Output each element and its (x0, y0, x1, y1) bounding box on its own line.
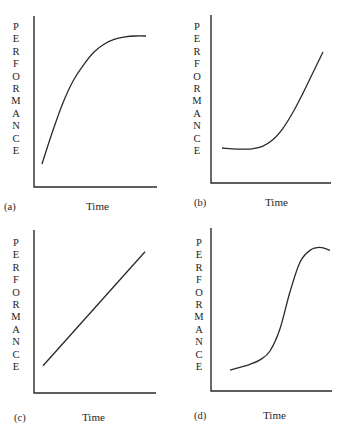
axes-a (34, 16, 157, 187)
y-axis-label-letter: A (193, 108, 201, 119)
y-axis-label-letter: F (13, 274, 19, 285)
y-axis-label-letter: P (13, 21, 19, 32)
x-axis-label: Time (263, 409, 286, 421)
panel-b: PERFORMANCETime(b) (192, 15, 331, 209)
x-axis-label: Time (86, 200, 109, 212)
y-axis-label-letter: C (12, 133, 19, 144)
y-axis-label-letter: M (194, 311, 204, 322)
panel-a: PERFORMANCETime(a) (4, 16, 157, 213)
y-axis-label-letter: O (12, 287, 20, 298)
y-axis-label-letter: M (11, 311, 21, 322)
panel-label: (a) (4, 201, 16, 213)
y-axis-label-letter: E (196, 249, 202, 260)
y-axis-label-letter: N (12, 336, 20, 347)
y-axis-label-letter: C (12, 349, 19, 360)
panel-d: PERFORMANCETime(d) (194, 228, 332, 422)
y-axis-label-letter: R (12, 262, 19, 273)
performance-curves-figure: PERFORMANCETime(a)PERFORMANCETime(b)PERF… (0, 0, 349, 424)
panel-label: (d) (194, 410, 207, 422)
y-axis-label-letter: M (11, 95, 21, 106)
y-axis-label-letter: N (12, 120, 20, 131)
y-axis-label-letter: E (13, 361, 19, 372)
panel-label: (b) (194, 197, 207, 209)
y-axis-label-letter: O (12, 71, 20, 82)
y-axis-label-letter: A (12, 324, 20, 335)
y-axis-label-letter: E (13, 145, 19, 156)
performance-curve-d (230, 247, 330, 370)
y-axis-label-letter: M (192, 95, 202, 106)
y-axis-label-letter: F (13, 58, 19, 69)
panel-label: (c) (14, 412, 26, 424)
y-axis-label-letter: E (13, 249, 19, 260)
x-axis-label: Time (265, 196, 288, 208)
y-axis-label-letter: P (194, 21, 200, 32)
y-axis-label-letter: E (13, 33, 19, 44)
y-axis-label-letter: O (193, 71, 201, 82)
y-axis-label-letter: R (195, 299, 202, 310)
performance-curve-a (42, 36, 146, 164)
y-axis-label-letter: A (12, 108, 20, 119)
y-axis-label-letter: A (195, 324, 203, 335)
y-axis-label-letter: R (195, 262, 202, 273)
y-axis-label-letter: E (194, 145, 200, 156)
axes-b (211, 15, 331, 183)
y-axis-label-letter: O (195, 287, 203, 298)
axes-c (34, 230, 156, 393)
y-axis-label-letter: F (194, 58, 200, 69)
y-axis-label-letter: R (193, 46, 200, 57)
y-axis-label-letter: N (193, 120, 201, 131)
y-axis-label-letter: R (12, 83, 19, 94)
y-axis-label-letter: E (194, 33, 200, 44)
y-axis-label-letter: C (195, 349, 202, 360)
panel-c: PERFORMANCETime(c) (11, 230, 156, 424)
performance-curve-c (43, 252, 145, 366)
y-axis-label-letter: P (196, 237, 202, 248)
y-axis-label-letter: R (12, 46, 19, 57)
y-axis-label-letter: C (193, 133, 200, 144)
performance-curve-b (222, 52, 323, 149)
y-axis-label-letter: E (196, 361, 202, 372)
x-axis-label: Time (82, 411, 105, 423)
y-axis-label-letter: R (193, 83, 200, 94)
y-axis-label-letter: F (196, 274, 202, 285)
y-axis-label-letter: N (195, 336, 203, 347)
y-axis-label-letter: R (12, 299, 19, 310)
y-axis-label-letter: P (13, 237, 19, 248)
axes-d (211, 228, 332, 391)
